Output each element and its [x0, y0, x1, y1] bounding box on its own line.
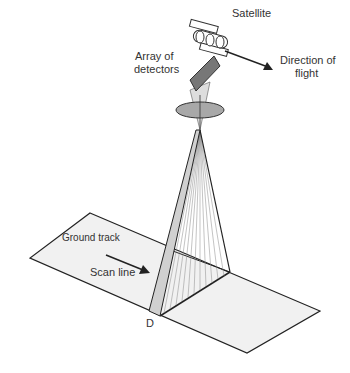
label-array-1: Array of [135, 50, 174, 63]
label-scan-line: Scan line [90, 266, 135, 279]
satellite-icon [189, 19, 228, 56]
label-ground-track: Ground track [62, 231, 120, 244]
label-direction-1: Direction of [280, 54, 336, 67]
label-array-2: detectors [134, 63, 179, 76]
label-satellite: Satellite [232, 7, 271, 20]
label-direction-2: flight [295, 67, 318, 80]
label-point-d: D [146, 317, 154, 330]
flight-arrow [225, 51, 268, 67]
